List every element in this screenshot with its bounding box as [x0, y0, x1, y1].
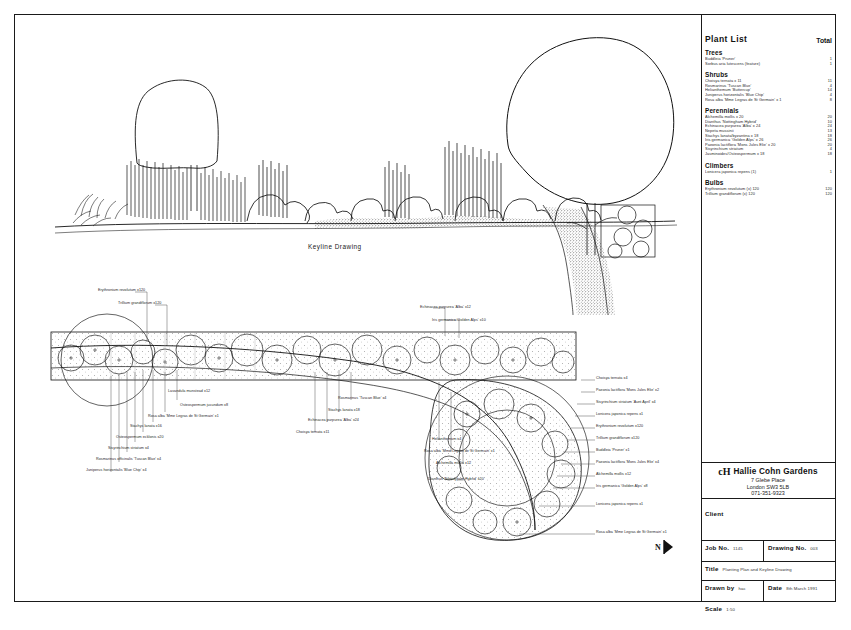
plant-list-section-perennials: Perennials Alchemilla mollis x 20 20 Dia… — [705, 107, 832, 156]
plan-annotation: Sisyrinchium striatum x4 — [108, 446, 149, 450]
scale-label: Scale — [705, 605, 722, 612]
plant-list-section-trees: Trees Buddleia 'Pruner' 1 Sorbus aria lu… — [705, 49, 832, 66]
title-field[interactable]: Title Planting Plan and Keyline Drawing — [701, 562, 835, 581]
job-no-value: 1145 — [733, 546, 743, 551]
company-monogram-icon: cH — [718, 467, 730, 477]
plan-annotation: Rosa alba 'Mme Legras de St Germain' x1 — [148, 414, 219, 418]
job-drawing-row: Job No. 1145 Drawing No. 003 — [701, 541, 835, 562]
title-block: cH Hallie Cohn Gardens 7 Glebe Place Lon… — [701, 462, 835, 601]
plant-total: 1 — [820, 62, 832, 67]
title-label: Title — [705, 565, 719, 572]
plan-annotation: Stachys lanata x16 — [130, 424, 162, 428]
plan-annotation: Iris germanica 'Golden Alps' x8 — [596, 484, 648, 488]
plan-annotation: Rosmarinus officinalis 'Tuscan Blue' x4 — [96, 457, 161, 461]
keyline-drawing-label: Keyline Drawing — [308, 243, 362, 250]
keyline-elevation-drawing — [15, 15, 715, 315]
plan-annotation: Paeonia lactiflora 'Mons Jules Elie' x2 — [596, 388, 659, 392]
title-block-logo-row: cH Hallie Cohn Gardens 7 Glebe Place Lon… — [701, 463, 835, 499]
plan-annotation: Echinacea purpurea 'Alba' x12 — [420, 305, 471, 309]
plant-list-section-bulbs: Bulbs Erythronium revolutum (x) 120 120 … — [705, 179, 832, 196]
plan-annotation: Trillium grandiflorum x120 — [118, 301, 161, 305]
plant-name: Sorbus aria lutescens (feature) — [705, 62, 820, 67]
plant-row: Lonicera japonica repens (1) 1 — [705, 170, 832, 175]
section-title: Trees — [705, 49, 832, 56]
plant-row: Rosa alba 'Mme Legras de St Germain' x 1… — [705, 98, 832, 103]
plan-annotation: Alchemilla mollis x12 — [596, 472, 631, 476]
job-no-label: Job No. — [705, 544, 729, 551]
plan-annotation: Iris germanica 'Golden Alps' x10 — [432, 318, 486, 322]
plant-list-section-climbers: Climbers Lonicera japonica repens (1) 1 — [705, 162, 832, 175]
plan-annotation: Erythronium revolutum x120 — [98, 288, 145, 292]
plan-annotation: Trillium grandiflorum x120 — [596, 436, 639, 440]
plant-name: Rosa alba 'Mme Legras de St Germain' x 1 — [705, 98, 820, 103]
plant-total: 1 — [820, 170, 832, 175]
plan-annotation: Lonicera japonica repens x1 — [596, 502, 643, 506]
plant-total: 8 — [820, 98, 832, 103]
drawing-sheet: Keyline Drawing — [0, 0, 851, 630]
date-field[interactable]: Date 8th March 1991 — [764, 581, 835, 601]
drawn-date-row: Drawn by hac Date 8th March 1991 — [701, 581, 835, 602]
plant-row: Sorbus aria lutescens (feature) 1 — [705, 62, 832, 67]
plan-annotation: Paeonia lactiflora 'Mons Jules Elie' x4 — [596, 460, 659, 464]
plant-name: Trillium grandiflorum (x) 120 — [705, 192, 820, 197]
company-address-line-1: 7 Glebe Place — [747, 477, 789, 483]
company-phone: 071-351-9323 — [747, 490, 789, 496]
section-title: Climbers — [705, 162, 832, 169]
plan-annotation: Rosa alba 'Mme Legras de St Germain' x1 — [596, 530, 667, 534]
plan-annotation: Osteospermum ecklonis x20 — [116, 435, 164, 439]
date-value: 8th March 1991 — [786, 586, 817, 591]
client-field[interactable]: Client — [701, 499, 835, 541]
plant-list-header: Plant List Total — [705, 34, 832, 44]
date-label: Date — [768, 584, 782, 591]
plant-list-title: Plant List — [705, 34, 747, 44]
north-arrow: N — [655, 539, 674, 555]
plan-annotation: Lavandula munstead x12 — [168, 389, 210, 393]
drawn-by-value: hac — [738, 586, 745, 591]
plant-row: Jasminoides/Osteospermum x 18 18 — [705, 152, 832, 157]
job-no-field[interactable]: Job No. 1145 — [701, 541, 764, 561]
elevation-dark-foliage-left — [127, 159, 245, 222]
plan-annotation: Stachys lanata x18 — [328, 408, 360, 412]
section-title: Perennials — [705, 107, 832, 114]
plan-annotation: Lonicera japonica repens x1 — [596, 412, 643, 416]
drawn-by-label: Drawn by — [705, 584, 734, 591]
section-title: Shrubs — [705, 71, 832, 78]
plan-annotation: Buddleia 'Pruner' x1 — [596, 448, 630, 452]
elevation-stone-wall — [601, 205, 655, 258]
plant-list: Plant List Total Trees Buddleia 'Pruner'… — [705, 34, 832, 196]
plan-annotation: Echinacea purpurea 'Alba' x24 — [308, 418, 359, 422]
plant-list-section-shrubs: Shrubs Choisya ternata x 11 11 Rosmarinu… — [705, 71, 832, 102]
company-name: Hallie Cohn Gardens — [733, 467, 817, 476]
plant-list-total-header: Total — [816, 37, 832, 44]
scale-value: 1:50 — [726, 607, 735, 612]
elevation-spiky-accents — [259, 141, 501, 219]
plant-name: Jasminoides/Osteospermum x 18 — [705, 152, 820, 157]
drawn-by-field[interactable]: Drawn by hac — [701, 581, 764, 601]
plan-annotation: Alchemilla mollis x12 — [436, 461, 471, 465]
plan-annotation: Rosa alba 'Mme Legras de St Germain' x1 — [424, 449, 495, 453]
elevation-grass-left — [73, 194, 128, 226]
section-title: Bulbs — [705, 179, 832, 186]
elevation-tree-small — [135, 80, 218, 211]
plan-annotation: Dianthus 'Nottingham Hybrid' x20 — [428, 477, 484, 481]
plan-annotation: Rosmarinus 'Tuscan Blue' x4 — [338, 396, 386, 400]
drawing-no-value: 003 — [810, 546, 817, 551]
north-arrow-icon — [662, 539, 674, 555]
plan-annotation: Osteospermum jucundum x8 — [180, 403, 228, 407]
plan-annotation: Sisyrinchium striatum 'Aunt April' x4 — [596, 400, 656, 404]
north-arrow-label: N — [655, 543, 661, 552]
plan-annotation: Choisya ternata x4 — [596, 376, 627, 380]
drawing-no-field[interactable]: Drawing No. 003 — [764, 541, 835, 561]
plan-annotation: Erythronium revolutum x120 — [596, 424, 643, 428]
plant-total: 18 — [820, 152, 832, 157]
drawing-no-label: Drawing No. — [768, 544, 806, 551]
plan-annotation: Juniperus horizontalis 'Blue Chip' x4 — [86, 468, 147, 472]
scale-field[interactable]: Scale 1:50 — [701, 602, 835, 621]
plan-annotation: Helianthemum x4 — [432, 437, 461, 441]
plant-total: 120 — [820, 192, 832, 197]
title-value: Planting Plan and Keyline Drawing — [723, 567, 792, 572]
client-label: Client — [705, 510, 723, 517]
company-address-line-2: London SW3 5LB — [747, 484, 789, 490]
plant-row: Trillium grandiflorum (x) 120 120 — [705, 192, 832, 197]
plan-annotation: Choisya ternata x11 — [296, 430, 329, 434]
